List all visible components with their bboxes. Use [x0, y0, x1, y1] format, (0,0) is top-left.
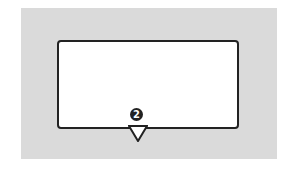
- callout-box: [57, 40, 239, 129]
- down-triangle-pointer-icon: [128, 125, 148, 142]
- callout-number-badge: 2: [130, 108, 143, 121]
